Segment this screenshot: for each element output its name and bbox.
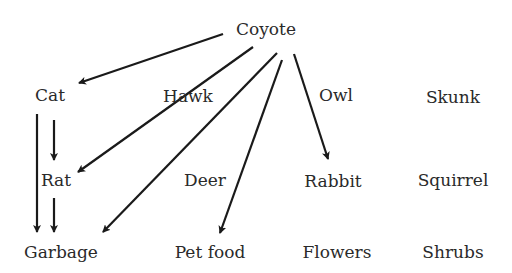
- node-rat: Rat: [41, 172, 71, 189]
- node-owl: Owl: [319, 87, 353, 104]
- arrow-coyote-to-garbage: [103, 53, 277, 232]
- node-hawk: Hawk: [163, 88, 213, 105]
- node-shrubs: Shrubs: [422, 244, 483, 261]
- arrow-coyote-to-cat: [79, 34, 223, 83]
- node-rabbit: Rabbit: [304, 173, 361, 190]
- node-skunk: Skunk: [426, 89, 480, 106]
- node-deer: Deer: [184, 172, 226, 189]
- node-cat: Cat: [35, 87, 65, 104]
- node-flowers: Flowers: [303, 244, 372, 261]
- arrow-coyote-to-petfood: [220, 60, 282, 233]
- arrows-layer: [0, 0, 512, 273]
- arrow-coyote-to-rabbit: [294, 54, 328, 159]
- node-petfood: Pet food: [175, 244, 246, 261]
- node-garbage: Garbage: [24, 244, 98, 261]
- node-coyote: Coyote: [236, 21, 296, 38]
- node-squirrel: Squirrel: [418, 172, 489, 189]
- food-web-diagram: Coyote Cat Hawk Owl Skunk Rat Deer Rabbi…: [0, 0, 512, 273]
- arrow-coyote-to-rat: [78, 47, 253, 172]
